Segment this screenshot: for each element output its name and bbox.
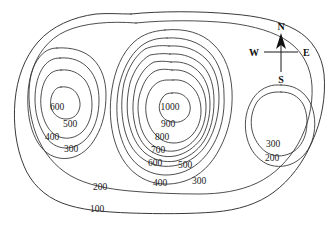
elevation-label-200: 200 — [265, 153, 280, 163]
elevation-label-100: 100 — [90, 204, 105, 214]
elevation-label-600: 600 — [50, 102, 65, 112]
compass-label-south: S — [278, 74, 284, 85]
elevation-label-500: 500 — [178, 160, 193, 170]
elevation-label-300: 300 — [192, 176, 207, 186]
compass-label-north: N — [277, 21, 285, 32]
compass-label-west: W — [249, 47, 259, 58]
contour-path-east-200 — [245, 85, 314, 166]
elevation-label-300: 300 — [266, 139, 281, 149]
elevation-label-500: 500 — [63, 119, 78, 129]
compass-label-east: E — [303, 47, 310, 58]
contour-path-100 — [14, 12, 324, 214]
elevation-label-300: 300 — [64, 144, 79, 154]
contour-map-canvas: 6005004003001000900800700600500400300300… — [0, 0, 335, 232]
elevation-label-700: 700 — [151, 145, 166, 155]
elevation-label-600: 600 — [148, 158, 163, 168]
elevation-label-400: 400 — [45, 132, 60, 142]
elevation-label-group: 6005004003001000900800700600500400300300… — [45, 102, 281, 214]
elevation-label-200: 200 — [93, 182, 108, 192]
elevation-label-400: 400 — [153, 178, 168, 188]
elevation-label-800: 800 — [155, 132, 170, 142]
topographic-map-figure: 6005004003001000900800700600500400300300… — [0, 0, 335, 232]
elevation-label-900: 900 — [161, 119, 176, 129]
elevation-label-1000: 1000 — [161, 102, 180, 112]
